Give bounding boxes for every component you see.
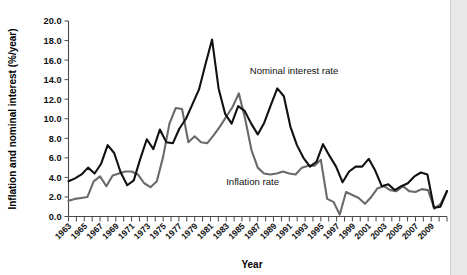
x-axis-tick-label: 1997 (321, 221, 342, 242)
y-axis-tick-labels: 0.02.04.06.08.010.012.014.016.018.020.0 (44, 16, 62, 222)
annotation-nominal-interest-rate: Nominal interest rate (250, 65, 339, 76)
x-axis-tick-label: 1965 (69, 221, 90, 242)
x-axis-tick-label: 2005 (384, 221, 405, 242)
x-axis-tick-label: 1975 (147, 221, 168, 242)
x-axis-tick-label: 1999 (337, 221, 358, 242)
y-axis-tick-label: 4.0 (49, 173, 62, 183)
x-axis-tick-label: 1979 (179, 221, 200, 242)
x-axis-tick-label: 1995 (305, 221, 326, 242)
y-axis-tick-label: 12.0 (44, 95, 62, 105)
series-line-inflation-rate (69, 93, 448, 214)
y-axis-tick-label: 6.0 (49, 153, 62, 163)
y-axis-tick-label: 10.0 (44, 114, 62, 124)
x-axis-tick-label: 2003 (368, 221, 389, 242)
y-axis-title: Inflation and nominal interest (%/year) (7, 28, 18, 209)
annotation-inflation-rate: Inflation rate (226, 176, 279, 187)
chart-figure: 0.02.04.06.08.010.012.014.016.018.020.0 … (0, 0, 467, 275)
x-axis-tick-label: 1977 (163, 221, 184, 242)
x-axis-tick-label: 1963 (53, 221, 74, 242)
x-axis-title: Year (241, 259, 262, 270)
x-axis-tick-label: 1985 (226, 221, 247, 242)
x-axis-tick-label: 1983 (211, 221, 232, 242)
x-axis-tick-label: 2009 (416, 221, 437, 242)
y-axis-ticks (65, 21, 69, 217)
y-axis-tick-label: 0.0 (49, 212, 62, 222)
x-axis-tick-label: 1967 (84, 221, 105, 242)
y-axis-tick-label: 20.0 (44, 16, 62, 26)
inflation-nominal-interest-line-chart: 0.02.04.06.08.010.012.014.016.018.020.0 … (0, 0, 467, 275)
y-axis-tick-label: 16.0 (44, 56, 62, 66)
x-axis-tick-label: 1971 (116, 221, 137, 242)
y-axis-tick-label: 14.0 (44, 75, 62, 85)
x-axis-ticks (69, 217, 448, 222)
x-axis-tick-labels: 1963196519671969197119731975197719791981… (53, 221, 436, 242)
y-axis-tick-label: 18.0 (44, 36, 62, 46)
x-axis-tick-label: 1989 (258, 221, 279, 242)
x-axis-tick-label: 1987 (242, 221, 263, 242)
y-axis-tick-label: 2.0 (49, 192, 62, 202)
x-axis-tick-label: 2001 (352, 221, 373, 242)
x-axis-tick-label: 1973 (132, 221, 153, 242)
x-axis-tick-label: 1981 (195, 221, 216, 242)
page-margin-strip (451, 0, 467, 275)
x-axis-tick-label: 1991 (274, 221, 295, 242)
x-axis-tick-label: 1969 (100, 221, 121, 242)
y-axis-tick-label: 8.0 (49, 134, 62, 144)
x-axis-tick-label: 2007 (400, 221, 421, 242)
x-axis-tick-label: 1993 (289, 221, 310, 242)
